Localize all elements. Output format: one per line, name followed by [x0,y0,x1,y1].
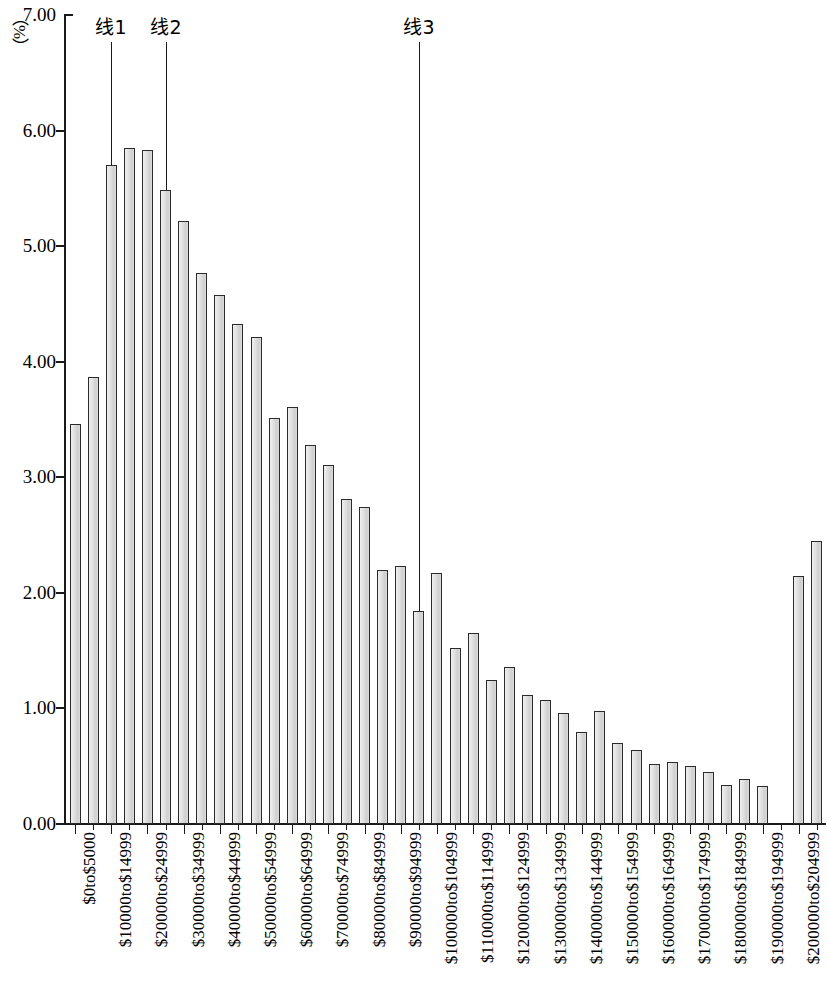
x-axis-tick [618,825,619,834]
bar [305,445,316,824]
annotation-label: 线3 [403,18,434,37]
x-axis-tick-label: $10000to$14999 [117,832,134,947]
bar [649,764,660,824]
bar [232,324,243,824]
bar [106,165,117,824]
bar [287,407,298,824]
x-axis-tick [401,825,402,834]
x-axis-tick [129,825,130,830]
x-axis-tick-label: $40000to$44999 [226,832,243,947]
x-axis-tick-label: $180000to$184999 [732,832,749,964]
x-axis-tick [147,825,148,834]
y-axis-tick-label: 3.00 [0,467,56,486]
x-axis-tick [328,825,329,834]
plot-area [66,15,826,824]
x-axis-tick [582,825,583,834]
x-axis-tick [202,825,203,830]
x-axis-tick-label: $160000to$164999 [660,832,677,964]
x-axis-tick [473,825,474,834]
x-axis-tick-label: $190000to$194999 [769,832,786,964]
bar [395,566,406,824]
x-axis-tick-label: $170000to$174999 [696,832,713,964]
x-axis-tick [527,825,528,830]
x-axis-tick [292,825,293,834]
bar [594,711,605,824]
x-axis-tick [346,825,347,830]
y-axis-tick-label: 5.00 [0,236,56,255]
annotation-label: 线2 [150,18,181,37]
bar [124,148,135,824]
bar [70,424,81,824]
x-axis-tick [564,825,565,830]
bar [377,570,388,824]
x-axis-tick-label: $130000to$134999 [552,832,569,964]
bar [431,573,442,824]
bar [323,465,334,824]
x-axis-tick [184,825,185,834]
bar [793,576,804,824]
y-axis-tick-label: 6.00 [0,121,56,140]
bar [214,295,225,824]
bar [721,785,732,824]
x-axis-tick [383,825,384,830]
y-axis-tick-labels: 0.001.002.003.004.005.006.007.00 [0,0,56,840]
annotation-label: 线1 [95,18,126,37]
annotation-leader-line [111,42,112,165]
bar [486,680,497,824]
x-axis-tick [781,825,782,830]
x-axis-tick [93,825,94,830]
x-axis-tick [166,825,167,830]
bar [739,779,750,824]
x-axis-tick [220,825,221,834]
y-axis-tick-label: 4.00 [0,352,56,371]
x-axis-tick [600,825,601,830]
x-axis-tick [745,825,746,830]
x-axis-tick [726,825,727,834]
x-axis-tick-label: $200000to$204999 [805,832,822,964]
x-axis-tick-label: $100000to$104999 [443,832,460,964]
bar [685,766,696,824]
x-axis-tick-label: $110000to$114999 [479,832,496,963]
x-axis-tick [256,825,257,834]
y-axis-tick-label: 7.00 [0,5,56,24]
bar-chart: （%） 0.001.002.003.004.005.006.007.00 $0t… [0,0,828,988]
x-axis-tick [509,825,510,834]
bar [540,700,551,824]
x-axis-tick-label: $20000to$24999 [153,832,170,947]
x-axis-tick [365,825,366,834]
x-axis-tick-label: $60000to$64999 [298,832,315,947]
x-axis-tick [75,825,76,834]
annotation-leader-line [166,42,167,190]
x-axis-tick [546,825,547,834]
x-axis-tick-label: $0to$5000 [81,832,98,905]
x-axis-tick [690,825,691,834]
x-axis-tick [310,825,311,830]
bar [269,418,280,824]
bar [667,762,678,824]
x-axis-tick-label: $90000to$94999 [407,832,424,947]
x-axis-tick [491,825,492,830]
x-axis-tick [636,825,637,830]
bar [612,743,623,824]
bar [703,772,714,824]
x-axis-tick-label: $150000to$154999 [624,832,641,964]
bar [142,150,153,824]
bar [359,507,370,824]
x-axis-tick [817,825,818,830]
x-axis-tick-label: $70000to$74999 [334,832,351,947]
x-axis-tick [763,825,764,834]
bar [196,273,207,824]
x-axis-tick [274,825,275,830]
x-axis-tick-label: $80000to$84999 [371,832,388,947]
y-axis-tick-label: 2.00 [0,583,56,602]
x-axis-tick [111,825,112,834]
bar [341,499,352,824]
x-axis-tick [437,825,438,834]
bar [757,786,768,824]
bar [631,750,642,824]
x-axis-tick [654,825,655,834]
x-axis-tick [419,825,420,830]
x-axis-tick [799,825,800,834]
x-axis-tick [708,825,709,830]
bar [811,541,822,824]
